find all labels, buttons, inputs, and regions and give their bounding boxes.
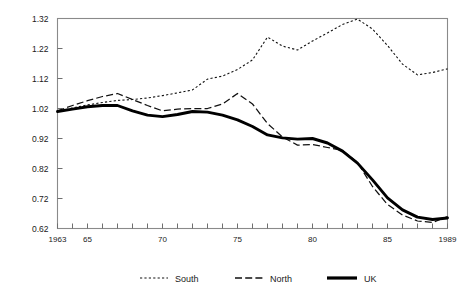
x-axis-tick-label: 75 bbox=[233, 235, 242, 244]
y-axis-tick-label: 0.62 bbox=[32, 224, 49, 234]
legend-label-north: North bbox=[270, 274, 292, 284]
x-axis-tick-label: 65 bbox=[83, 235, 92, 244]
y-axis-tick-label: 0.92 bbox=[32, 134, 49, 144]
legend-label-south: South bbox=[175, 274, 199, 284]
chart-background bbox=[0, 0, 475, 293]
y-axis-tick-label: 1.22 bbox=[32, 44, 49, 54]
x-axis-tick-label: 1963 bbox=[49, 235, 67, 244]
y-axis-tick-label: 0.72 bbox=[32, 194, 49, 204]
x-axis-tick-label: 85 bbox=[383, 235, 392, 244]
x-axis-tick-label: 70 bbox=[158, 235, 167, 244]
chart-canvas: 0.620.720.820.921.021.121.221.32 1963657… bbox=[0, 0, 475, 293]
y-axis-tick-label: 0.82 bbox=[32, 164, 49, 174]
line-chart: 0.620.720.820.921.021.121.221.32 1963657… bbox=[0, 0, 475, 293]
y-axis-tick-label: 1.12 bbox=[32, 74, 49, 84]
y-axis-tick-label: 1.32 bbox=[32, 14, 49, 24]
x-axis-tick-label: 1989 bbox=[439, 235, 457, 244]
x-axis-tick-label: 80 bbox=[308, 235, 317, 244]
legend-label-uk: UK bbox=[364, 274, 377, 284]
y-axis-tick-label: 1.02 bbox=[32, 104, 49, 114]
